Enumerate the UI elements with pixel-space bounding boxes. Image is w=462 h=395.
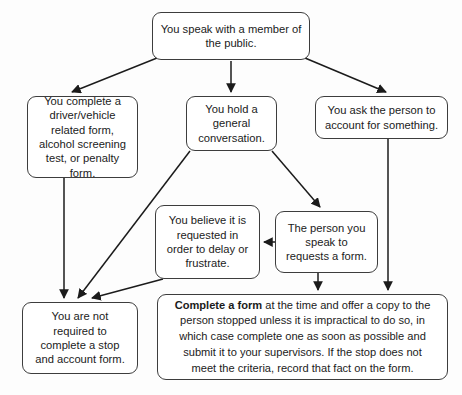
node-start[interactable]: You speak with a member of the public. xyxy=(152,12,310,60)
flowchart-canvas: You speak with a member of the public. Y… xyxy=(0,0,462,395)
node-general-conversation[interactable]: You hold a general conversation. xyxy=(186,96,277,151)
node-believe-delay-frustrate-label: You believe it is requested in order to … xyxy=(163,213,252,270)
node-ask-account[interactable]: You ask the person to account for someth… xyxy=(315,96,448,139)
node-driver-vehicle-form-label: You complete a driver/vehicle related fo… xyxy=(35,94,130,180)
edge-start-to-driver-form xyxy=(72,58,157,92)
node-person-requests-form[interactable]: The person you speak to requests a form. xyxy=(275,211,378,273)
node-start-label: You speak with a member of the public. xyxy=(160,22,302,51)
node-general-conversation-label: You hold a general conversation. xyxy=(194,102,269,145)
edge-start-to-ask-account xyxy=(305,58,386,92)
node-believe-delay-frustrate[interactable]: You believe it is requested in order to … xyxy=(155,205,260,279)
node-person-requests-form-label: The person you speak to requests a form. xyxy=(283,221,370,264)
node-driver-vehicle-form[interactable]: You complete a driver/vehicle related fo… xyxy=(27,96,138,178)
edge-general-conversation-to-requests-form xyxy=(272,151,320,207)
node-ask-account-label: You ask the person to account for someth… xyxy=(323,103,440,132)
node-complete-form-lead: Complete a form xyxy=(175,299,263,311)
edge-believe-delay-to-not-required xyxy=(92,279,163,298)
node-not-required[interactable]: You are not required to complete a stop … xyxy=(22,302,138,374)
node-complete-form-text: Complete a form at the time and offer a … xyxy=(170,298,435,377)
node-not-required-label: You are not required to complete a stop … xyxy=(30,309,130,366)
node-complete-form[interactable]: Complete a form at the time and offer a … xyxy=(157,294,448,380)
